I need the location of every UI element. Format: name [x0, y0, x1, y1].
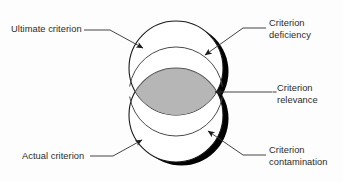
label-criterion-relevance-line1: Criterion — [277, 83, 318, 95]
label-criterion-deficiency-line2: deficiency — [269, 30, 311, 42]
label-criterion-contamination: Criterion contamination — [269, 145, 328, 168]
venn-diagram-figure: Ultimate criterion Actual criterion Crit… — [0, 0, 343, 181]
label-criterion-deficiency-line1: Criterion — [269, 18, 311, 30]
label-criterion-contamination-line1: Criterion — [269, 145, 328, 157]
label-ultimate-criterion: Ultimate criterion — [11, 24, 82, 36]
label-ultimate-criterion-line1: Ultimate criterion — [11, 24, 82, 36]
label-criterion-deficiency: Criterion deficiency — [269, 18, 311, 41]
leader-ultimate-criterion — [84, 30, 143, 48]
leader-actual-criterion — [90, 140, 142, 156]
label-actual-criterion: Actual criterion — [22, 151, 84, 163]
label-actual-criterion-line1: Actual criterion — [22, 151, 84, 163]
label-criterion-relevance: Criterion relevance — [277, 83, 318, 106]
label-criterion-relevance-line2: relevance — [277, 95, 318, 107]
label-criterion-contamination-line2: contamination — [269, 157, 328, 169]
